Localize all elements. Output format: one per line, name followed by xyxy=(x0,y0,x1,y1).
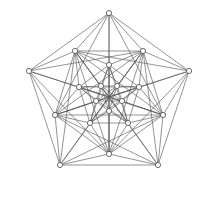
graph-edge xyxy=(75,51,189,71)
graph-edge xyxy=(60,115,163,165)
graph-vertex xyxy=(155,162,160,167)
graph-edge xyxy=(55,115,158,165)
graph-vertex xyxy=(52,112,57,117)
graph-vertex xyxy=(186,68,191,73)
graph-vertex xyxy=(72,48,77,53)
graph-vertex xyxy=(106,10,111,15)
graph-vertex xyxy=(98,83,103,88)
graph-vertex xyxy=(119,98,124,103)
graph-vertex xyxy=(106,151,111,156)
graph-edge xyxy=(90,86,117,123)
graph-vertex xyxy=(114,83,119,88)
graph-edge xyxy=(29,71,109,154)
graph-edge xyxy=(29,71,55,115)
graph-vertex xyxy=(93,98,98,103)
graph-figure xyxy=(0,0,216,203)
graph-vertex xyxy=(160,112,165,117)
graph-edge xyxy=(29,51,143,71)
graph-vertex xyxy=(87,120,92,125)
graph-vertex xyxy=(125,120,130,125)
graph-edge xyxy=(109,13,189,71)
edge-layer xyxy=(29,13,189,165)
graph-vertex xyxy=(57,162,62,167)
graph-canvas xyxy=(0,0,216,203)
graph-edge xyxy=(60,154,109,165)
graph-vertex xyxy=(26,68,31,73)
graph-edge xyxy=(163,71,189,115)
graph-vertex xyxy=(76,84,81,89)
graph-edge xyxy=(109,71,189,154)
graph-vertex xyxy=(106,62,111,67)
graph-vertex xyxy=(136,84,141,89)
graph-edge xyxy=(101,86,128,123)
graph-vertex xyxy=(140,48,145,53)
graph-edge xyxy=(29,13,109,71)
graph-edge xyxy=(109,154,158,165)
graph-vertex xyxy=(106,108,111,113)
